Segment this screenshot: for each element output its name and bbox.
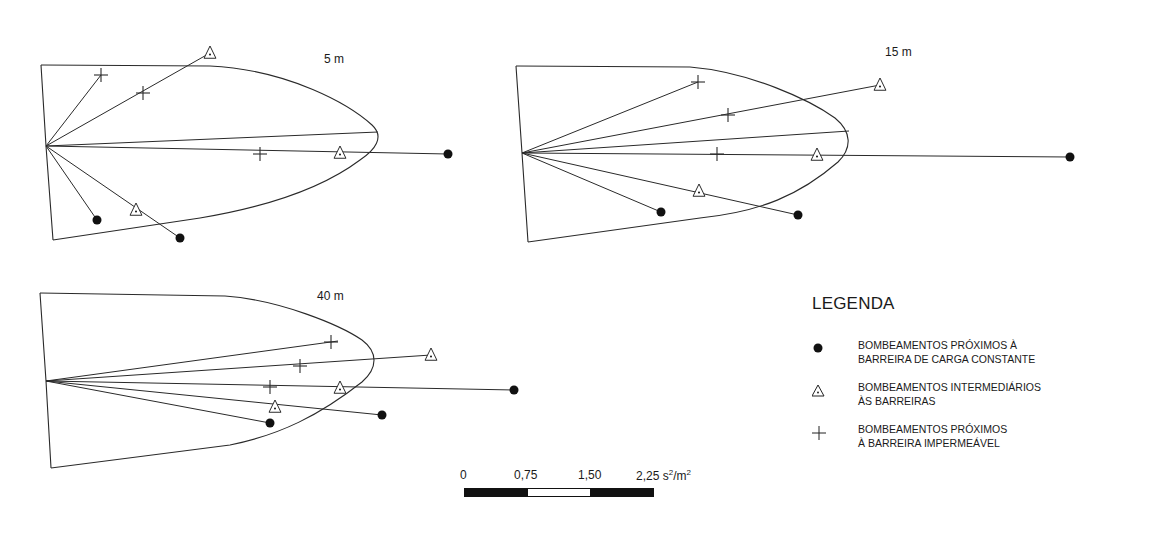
triangle-marker-icon [874, 78, 886, 90]
legend-item-intermediate: BOMBEAMENTOS INTERMEDIÁRIOS ÀS BARREIRAS [812, 380, 1132, 408]
dot-marker-icon [266, 419, 275, 428]
panel-label: 5 m [324, 52, 344, 66]
triangle-center-dot [135, 211, 137, 213]
legend-item-impermeable: BOMBEAMENTOS PRÓXIMOS À BARREIRA IMPERME… [812, 422, 1132, 450]
triangle-icon [812, 384, 826, 398]
legend-item-line1: BOMBEAMENTOS PRÓXIMOS À [858, 338, 1132, 352]
ray-line [522, 82, 698, 153]
ray-line [46, 341, 338, 381]
ray-line [46, 355, 431, 381]
panel-label: 40 m [317, 289, 344, 303]
ray-line [46, 381, 514, 390]
envelope-curve [41, 65, 378, 240]
panel-label: 15 m [885, 45, 912, 59]
ray-line [522, 153, 661, 212]
triangle-center-dot [698, 192, 700, 194]
ray-line [46, 381, 270, 423]
ray-line [522, 153, 1070, 157]
dot-icon [812, 342, 826, 356]
triangle-center-dot [339, 389, 341, 391]
triangle-center-dot [339, 154, 341, 156]
legend: LEGENDA BOMBEAMENTOS PRÓXIMOS À BARREIRA… [812, 294, 1132, 464]
legend-item-constant-head: BOMBEAMENTOS PRÓXIMOS À BARREIRA DE CARG… [812, 338, 1132, 366]
dot-marker-icon [176, 234, 185, 243]
triangle-marker-icon [425, 348, 437, 360]
scale-tick-2: 1,50 [578, 468, 601, 482]
dot-marker-icon [794, 211, 803, 220]
envelope-curve [40, 293, 374, 468]
triangle-center-dot [879, 86, 881, 88]
dot-marker-icon [510, 386, 519, 395]
triangle-marker-icon [811, 148, 823, 160]
scale-segment-3 [590, 488, 654, 497]
triangle-center-dot [209, 54, 211, 56]
ray-line [522, 85, 880, 153]
ray-line [46, 132, 378, 146]
dot-marker-icon [657, 208, 666, 217]
triangle-center-dot [816, 156, 818, 158]
ray-line [46, 146, 448, 154]
dot-marker-icon [93, 216, 102, 225]
triangle-center-dot [430, 356, 432, 358]
legend-item-line2: ÀS BARREIRAS [858, 394, 1132, 408]
ray-line [46, 53, 210, 146]
ray-line [46, 146, 97, 220]
legend-item-line1: BOMBEAMENTOS INTERMEDIÁRIOS [858, 380, 1132, 394]
scale-tick-1: 0,75 [514, 468, 537, 482]
dot-marker-icon [444, 150, 453, 159]
panel-15m: 15 m [516, 45, 1075, 242]
panel-40m: 40 m [40, 289, 519, 468]
ray-line [46, 75, 101, 146]
legend-item-line2: À BARREIRA IMPERMEÁVEL [858, 436, 1132, 450]
ray-line [522, 131, 849, 153]
panel-5m: 5 m [41, 46, 453, 243]
ray-line [46, 146, 180, 238]
scale-segment-1 [464, 488, 528, 497]
scale-segment-2 [527, 488, 591, 497]
legend-item-line1: BOMBEAMENTOS PRÓXIMOS [858, 422, 1132, 436]
scale-unit: s2/m2 [663, 469, 691, 483]
triangle-marker-icon [269, 400, 281, 412]
scale-bar: 0 0,75 1,50 2,25 s2/m2 [458, 468, 758, 508]
triangle-marker-icon [693, 184, 705, 196]
legend-item-line2: BARREIRA DE CARGA CONSTANTE [858, 352, 1132, 366]
legend-title: LEGENDA [812, 294, 1132, 314]
scale-tick-0: 0 [460, 468, 467, 482]
triangle-marker-icon [204, 46, 216, 58]
ray-line [522, 153, 798, 215]
plus-icon [812, 426, 826, 440]
dot-marker-icon [1066, 153, 1075, 162]
dot-marker-icon [378, 411, 387, 420]
scale-tick-3-with-unit: 2,25 s2/m2 [636, 468, 691, 483]
triangle-center-dot [274, 408, 276, 410]
boundary-line [41, 65, 53, 240]
